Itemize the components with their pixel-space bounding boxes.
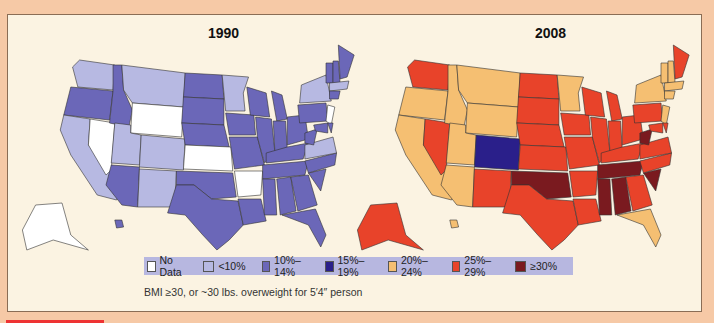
state-fl bbox=[617, 209, 661, 247]
state-pa bbox=[633, 103, 663, 123]
state-de bbox=[663, 123, 668, 133]
state-de bbox=[328, 123, 333, 133]
state-mi bbox=[606, 91, 622, 121]
state-fl bbox=[282, 209, 326, 247]
state-nd bbox=[183, 73, 223, 99]
state-nj bbox=[326, 105, 335, 125]
state-ct bbox=[665, 91, 676, 99]
legend-swatch bbox=[388, 261, 397, 272]
legend-item-15-19: 15%–19% bbox=[325, 254, 372, 278]
state-mt bbox=[122, 65, 185, 107]
state-ne bbox=[182, 123, 230, 147]
state-mi bbox=[271, 91, 287, 121]
state-mn bbox=[222, 75, 248, 111]
state-ma bbox=[330, 81, 349, 91]
state-ar bbox=[234, 171, 262, 197]
state-ne bbox=[517, 123, 565, 147]
legend-swatch bbox=[515, 261, 526, 272]
state-me bbox=[338, 45, 354, 79]
state-nm bbox=[473, 169, 512, 207]
state-la bbox=[238, 199, 266, 225]
legend-swatch bbox=[325, 261, 334, 272]
state-mn bbox=[557, 75, 583, 111]
state-hi bbox=[450, 220, 459, 228]
state-co bbox=[474, 135, 520, 170]
state-me bbox=[673, 45, 689, 79]
state-ia bbox=[226, 113, 256, 135]
legend-item-ge30: ≥30% bbox=[515, 260, 557, 272]
figure-panel: 1990 2008 No Data <10% 10%–14% 15%–19% 2… bbox=[7, 14, 702, 312]
state-vt bbox=[326, 63, 333, 83]
legend: No Data <10% 10%–14% 15%–19% 20%–24% 25%… bbox=[144, 257, 573, 275]
caption: BMI ≥30, or ~30 lbs. overweight for 5′4″… bbox=[144, 286, 362, 298]
legend-swatch bbox=[203, 261, 214, 272]
us-map-2008 bbox=[353, 35, 698, 255]
state-ks bbox=[518, 145, 567, 171]
legend-swatch bbox=[262, 261, 271, 272]
legend-item-20-24: 20%–24% bbox=[388, 254, 435, 278]
state-co bbox=[139, 135, 185, 170]
state-la bbox=[573, 199, 601, 225]
state-az bbox=[441, 165, 474, 207]
us-map-1990 bbox=[18, 35, 363, 255]
state-or bbox=[399, 87, 448, 120]
state-wa bbox=[408, 60, 450, 90]
state-ma bbox=[665, 81, 684, 91]
state-ct bbox=[330, 91, 341, 99]
state-pa bbox=[298, 103, 328, 123]
legend-item-no-data: No Data bbox=[147, 254, 187, 278]
state-nd bbox=[518, 73, 558, 99]
state-ak bbox=[22, 203, 88, 250]
legend-swatch bbox=[147, 261, 156, 272]
state-ar bbox=[569, 171, 597, 197]
state-vt bbox=[661, 63, 668, 83]
state-ak bbox=[357, 203, 423, 250]
legend-swatch bbox=[452, 261, 461, 272]
state-nm bbox=[138, 169, 177, 207]
state-ia bbox=[561, 113, 591, 135]
legend-item-25-29: 25%–29% bbox=[452, 254, 499, 278]
state-az bbox=[106, 165, 139, 207]
state-wy bbox=[131, 103, 184, 137]
state-ks bbox=[183, 145, 232, 171]
state-sd bbox=[182, 97, 224, 125]
state-nj bbox=[661, 105, 670, 125]
state-wa bbox=[73, 60, 115, 90]
state-sd bbox=[517, 97, 559, 125]
state-wi bbox=[247, 87, 270, 117]
state-ms bbox=[598, 179, 612, 215]
state-hi bbox=[115, 220, 124, 228]
legend-item-lt10: <10% bbox=[203, 260, 245, 272]
state-mt bbox=[457, 65, 520, 107]
state-or bbox=[64, 87, 113, 120]
state-wy bbox=[466, 103, 519, 137]
state-wi bbox=[582, 87, 605, 117]
state-ms bbox=[263, 179, 277, 215]
legend-item-10-14: 10%–14% bbox=[262, 254, 309, 278]
